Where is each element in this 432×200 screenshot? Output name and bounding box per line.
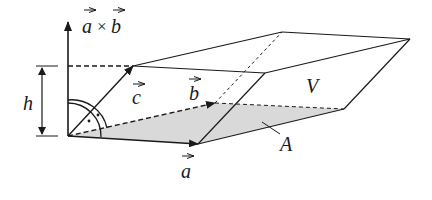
right-angle-dot-b <box>97 114 100 117</box>
hidden-edges <box>215 32 344 109</box>
right-angle-dot-a <box>88 120 91 123</box>
edge-c-ca <box>133 66 265 73</box>
cross-operator: × <box>97 17 107 36</box>
label-A: A <box>278 133 293 155</box>
edge-b-cb <box>215 32 282 103</box>
label-a: a <box>181 160 191 182</box>
cross-label-b: b <box>111 15 121 37</box>
diagram-canvas: a × b h c b a V A <box>0 0 432 200</box>
edge-cb-cab <box>282 32 410 39</box>
label-c: c <box>132 86 141 108</box>
label-h: h <box>23 92 33 114</box>
edge-ca-cab <box>265 39 410 73</box>
cross-label-a: a <box>82 15 92 37</box>
label-V: V <box>306 75 321 97</box>
edge-c-cb <box>133 32 282 66</box>
parallelepiped-figure: a × b h c b a V A <box>0 0 432 200</box>
label-cross-product: a × b <box>82 10 125 37</box>
edge-ab-cab <box>344 39 410 109</box>
label-b: b <box>189 82 199 104</box>
